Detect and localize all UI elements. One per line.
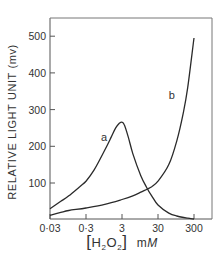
- curve-a: [50, 122, 194, 219]
- unit-M: M: [147, 236, 158, 250]
- y-tick-label: 300: [28, 104, 46, 116]
- y-tick-label: 100: [28, 177, 46, 189]
- chart: 100200300400500 0·030·3330300 ab RELATIV…: [0, 0, 224, 263]
- plot-frame: [50, 18, 212, 219]
- x-axis-title: [H2O2]mM: [86, 232, 158, 252]
- o-symbol: O: [107, 235, 118, 250]
- curve-label-b: b: [169, 89, 175, 101]
- y-axis-ticks: 100200300400500: [28, 30, 55, 189]
- y-tick-label: 400: [28, 67, 46, 79]
- y-tick-label: 500: [28, 30, 46, 42]
- curve-b: [50, 38, 194, 215]
- x-tick-label: 300: [185, 222, 203, 234]
- h-symbol: H: [91, 235, 101, 250]
- y-axis-title: RELATIVE LIGHT UNIT (mv): [6, 44, 18, 200]
- curve-label-a: a: [101, 131, 108, 143]
- unit-m: m: [137, 236, 148, 250]
- x-tick-label: 0·03: [39, 222, 60, 234]
- y-tick-label: 200: [28, 140, 46, 152]
- curves: [50, 38, 194, 219]
- x-tick-label: 30: [152, 222, 164, 234]
- bracket-close: ]: [122, 232, 127, 251]
